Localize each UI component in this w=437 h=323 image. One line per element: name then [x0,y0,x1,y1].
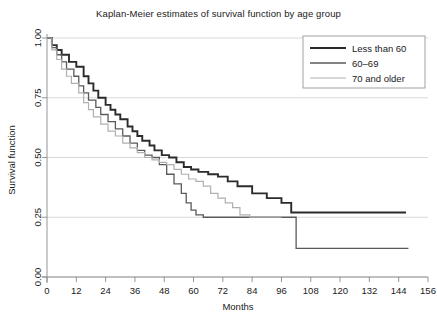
x-tick-label: 36 [130,285,141,296]
y-axis-ticks: 0.000.250.500.751.00 [32,29,48,287]
x-tick-label: 12 [71,285,82,296]
y-tick-label: 1.00 [32,29,43,48]
x-tick-label: 48 [159,285,170,296]
x-tick-label: 0 [44,285,49,296]
x-axis-title: Months [222,301,253,312]
y-tick-label: 0.50 [32,148,43,167]
x-tick-label: 156 [420,285,436,296]
x-tick-label: 132 [361,285,377,296]
x-tick-label: 144 [391,285,407,296]
x-tick-label: 120 [332,285,348,296]
legend-label-1: 60–69 [352,58,378,69]
survival-plot: 01224364860728496108120132144156 0.000.2… [0,0,437,323]
y-tick-label: 0.00 [32,268,43,287]
y-tick-label: 0.25 [32,208,43,227]
x-axis-ticks: 01224364860728496108120132144156 [44,277,436,296]
y-tick-label: 0.75 [32,89,43,108]
kaplan-meier-figure: Kaplan-Meier estimates of survival funct… [0,0,437,323]
x-tick-label: 60 [188,285,199,296]
survival-curve-2 [47,38,281,217]
legend-label-0: Less than 60 [352,43,406,54]
legend: Less than 6060–6970 and older [303,36,425,88]
x-tick-label: 96 [276,285,287,296]
x-tick-label: 108 [303,285,319,296]
legend-label-2: 70 and older [352,73,405,84]
x-tick-label: 24 [100,285,111,296]
x-tick-label: 84 [247,285,258,296]
x-tick-label: 72 [218,285,229,296]
y-axis-title: Survival function [6,125,17,195]
